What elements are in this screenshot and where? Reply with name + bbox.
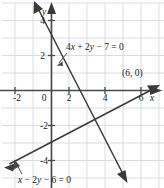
eq-upper-mid: + 2 — [75, 42, 90, 52]
x-tick-label-0: 0 — [42, 93, 47, 103]
svg-text:x − 2y − 6 = 0: x − 2y − 6 = 0 — [17, 175, 71, 185]
y-tick-label-2: 2 — [40, 51, 45, 61]
coordinate-plane: -2 0 2 4 6 4 2 -2 -4 x y 4x — [0, 0, 164, 188]
y-tick-label-neg4: -4 — [40, 156, 48, 166]
eq-lower-suffix: − 6 = 0 — [41, 175, 71, 185]
x-tick-label-neg2: -2 — [13, 93, 21, 103]
eq-upper-suffix: − 7 = 0 — [94, 42, 124, 52]
x-tick-label-6: 6 — [139, 93, 144, 103]
x-tick-label-2: 2 — [67, 93, 72, 103]
y-axis-name-label: y — [41, 7, 47, 17]
point-label-6-0: (6, 0) — [122, 68, 143, 79]
graph-figure: -2 0 2 4 6 4 2 -2 -4 x y 4x — [0, 0, 164, 188]
y-tick-label-neg2: -2 — [40, 121, 48, 131]
x-tick-label-4: 4 — [103, 93, 108, 103]
y-tick-label-4: 4 — [40, 16, 45, 26]
x-axis-name-label: x — [149, 93, 155, 103]
eq-lower-mid: − 2 — [22, 175, 37, 185]
svg-text:4x + 2y − 7 = 0: 4x + 2y − 7 = 0 — [66, 42, 124, 52]
